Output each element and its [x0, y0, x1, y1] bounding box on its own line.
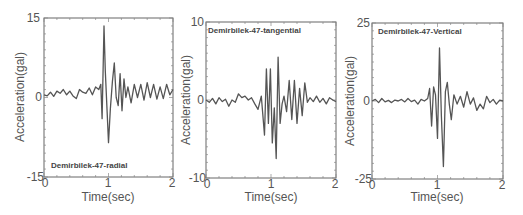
panel-title: Demirbilek-47-Vertical: [378, 27, 462, 36]
y-tick-zero: 0: [197, 93, 204, 107]
figure-canvas: 15 0 -15 0 1 2 Time(sec) Acceleration(ga…: [0, 0, 523, 215]
plot-frame: [44, 18, 173, 177]
waveform-vertical: [372, 48, 503, 167]
panel-vertical: 25 0 -25 0 1 2 Time(sec) Acceleration(ga…: [343, 16, 506, 204]
y-tick-top: 15: [27, 11, 41, 25]
x-tick-2: 2: [169, 176, 176, 190]
x-tick-2: 2: [499, 178, 506, 192]
y-axis-label: Acceleration(gal): [13, 52, 27, 142]
tick-marks: [372, 23, 503, 179]
x-tick-1: 1: [105, 176, 112, 190]
waveform-tangential: [206, 57, 336, 158]
y-axis-label: Acceleration(gal): [343, 56, 357, 146]
y-tick-top: 10: [191, 15, 205, 29]
waveform-radial: [44, 26, 173, 143]
x-tick-0: 0: [369, 178, 376, 192]
panel-title: Demirbilek-47-tangential: [208, 26, 301, 35]
y-tick-top: 25: [357, 16, 371, 30]
y-tick-zero: 0: [35, 90, 42, 104]
plot-frame: [372, 23, 503, 179]
x-axis-label: Time(sec): [411, 190, 464, 204]
x-tick-1: 1: [268, 177, 275, 191]
x-tick-2: 2: [332, 177, 339, 191]
panel-radial: 15 0 -15 0 1 2 Time(sec) Acceleration(ga…: [13, 11, 176, 204]
x-axis-label: Time(sec): [245, 190, 298, 204]
y-tick-zero: 0: [363, 94, 370, 108]
panel-tangential: 10 0 -10 0 1 2 Time(sec) Acceleration(ga…: [179, 15, 339, 204]
x-tick-0: 0: [204, 177, 211, 191]
x-tick-0: 0: [42, 176, 49, 190]
tick-marks: [44, 18, 173, 177]
y-axis-label: Acceleration(gal): [179, 55, 193, 145]
panel-title: Demirbilek-47-radial: [51, 161, 127, 170]
x-axis-label: Time(sec): [82, 190, 135, 204]
